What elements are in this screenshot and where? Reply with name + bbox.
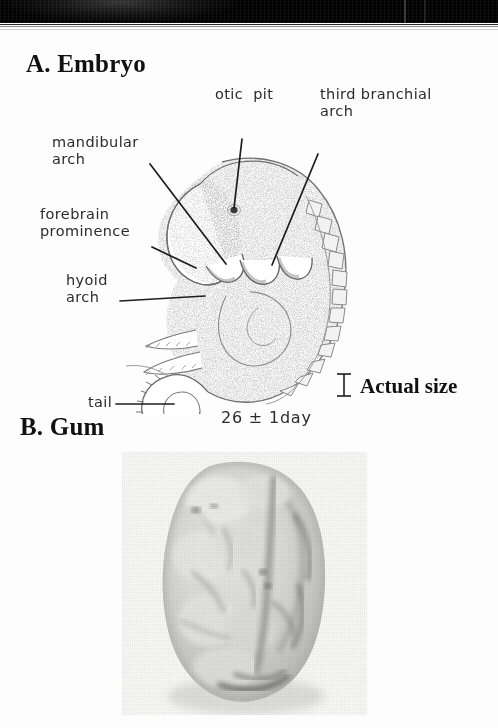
section-b-heading: B. Gum <box>20 413 105 441</box>
leader-otic-pit <box>234 139 242 208</box>
embryo-age-caption: 26 ± 1day <box>221 408 312 427</box>
label-hyoid-arch: hyoid arch <box>66 272 108 306</box>
leader-mandibular-arch <box>150 164 226 264</box>
scan-streak <box>404 0 406 23</box>
embryo-figure: mandibular arch otic pit third branchial… <box>0 34 498 414</box>
leader-third-branchial-arch <box>272 154 318 265</box>
label-forebrain-prominence: forebrain prominence <box>40 206 130 240</box>
leader-forebrain-prominence <box>152 247 196 268</box>
actual-size-label: Actual size <box>360 374 457 399</box>
label-third-branchial-arch: third branchial arch <box>320 86 432 120</box>
figure-page: A. Embryo <box>0 0 498 728</box>
gum-photograph <box>122 452 367 715</box>
page-top-rule <box>0 23 498 27</box>
gum-specimen-image <box>122 452 367 715</box>
label-mandibular-arch: mandibular arch <box>52 134 139 168</box>
page-top-rule-secondary <box>0 29 498 30</box>
label-otic-pit: otic pit <box>215 86 273 103</box>
leader-hyoid-arch <box>120 296 205 301</box>
scan-artifact-band <box>0 0 498 23</box>
label-tail: tail <box>88 394 112 411</box>
scan-streak <box>424 0 426 23</box>
